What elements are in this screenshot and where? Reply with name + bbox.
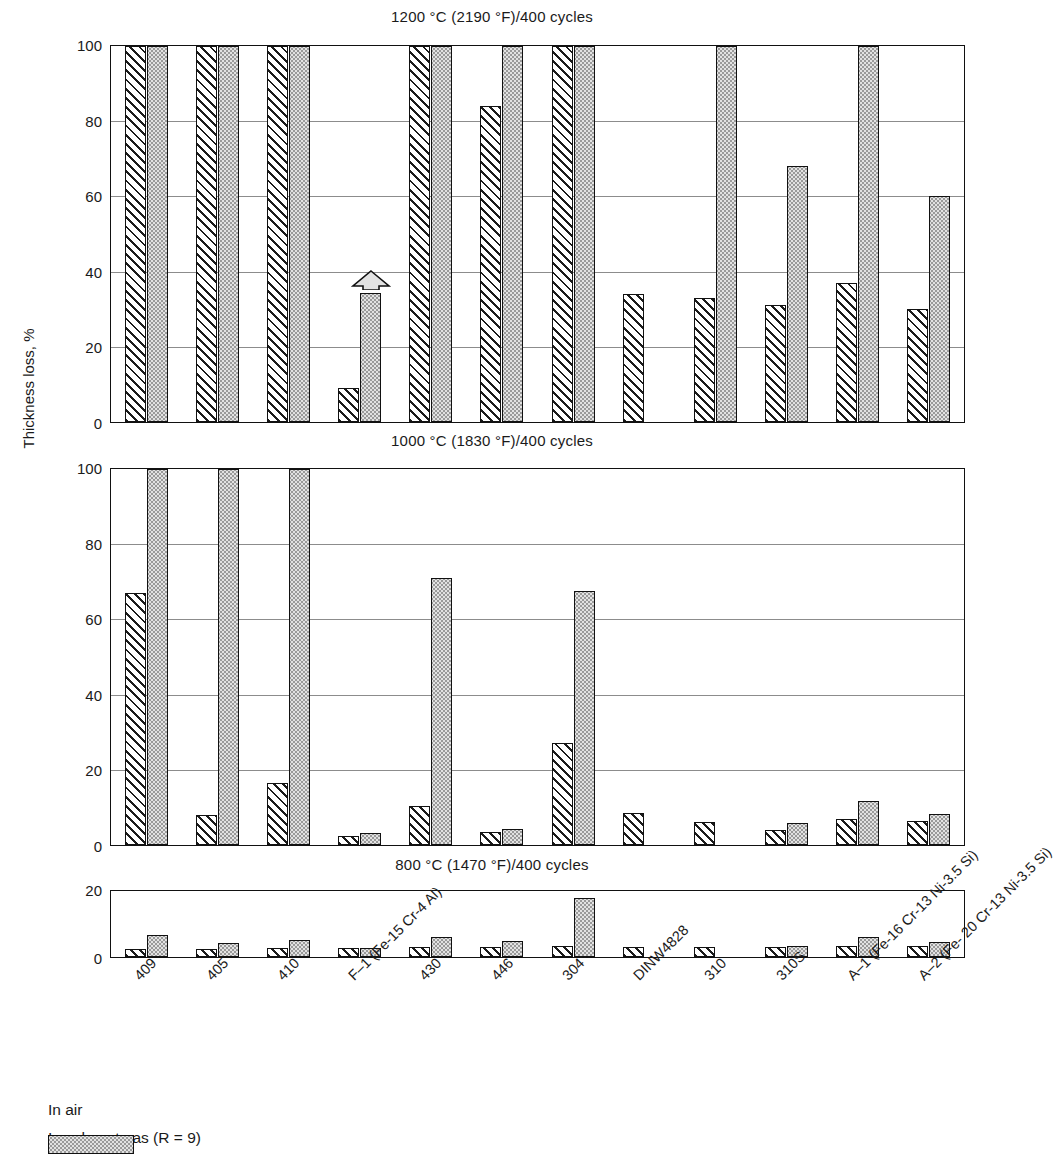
bar-exhaust xyxy=(929,196,950,422)
bar-exhaust xyxy=(360,833,381,845)
bar-group xyxy=(324,46,395,422)
panel-3-title: 800 °C (1470 °F)/400 cycles xyxy=(0,856,984,873)
panel-2-plot-area xyxy=(110,468,965,846)
bar-air xyxy=(196,46,217,422)
bar-air xyxy=(267,46,288,422)
y-tick-label: 20 xyxy=(62,339,102,356)
bar-group xyxy=(182,469,253,845)
legend-label-air: In air xyxy=(48,1101,82,1119)
bar-air xyxy=(267,783,288,845)
bar-group xyxy=(111,46,182,422)
bar-exhaust xyxy=(147,469,168,845)
bar-group xyxy=(751,891,822,957)
bar-air xyxy=(480,106,501,422)
y-tick-label: 20 xyxy=(62,762,102,779)
bar-air xyxy=(907,946,928,957)
bar-group xyxy=(253,891,324,957)
bar-exhaust xyxy=(929,814,950,845)
bar-group xyxy=(893,469,964,845)
bar-air xyxy=(623,947,644,957)
x-tick-label: 409 xyxy=(131,955,159,983)
bar-exhaust xyxy=(289,46,310,422)
y-tick-label: 0 xyxy=(62,950,102,967)
bar-air xyxy=(836,283,857,422)
bar-air xyxy=(480,947,501,957)
bar-exhaust xyxy=(502,46,523,422)
bar-air xyxy=(338,836,359,845)
x-tick-label: 446 xyxy=(488,955,516,983)
bar-exhaust xyxy=(147,46,168,422)
bar-group xyxy=(466,46,537,422)
bar-exhaust xyxy=(218,46,239,422)
bar-group xyxy=(538,46,609,422)
bar-air xyxy=(765,305,786,422)
bar-air xyxy=(338,948,359,957)
bar-group xyxy=(395,46,466,422)
bar-air xyxy=(765,830,786,845)
bar-exhaust xyxy=(502,829,523,845)
bar-air xyxy=(338,388,359,422)
bar-exhaust xyxy=(574,898,595,957)
bar-group xyxy=(324,469,395,845)
bar-exhaust xyxy=(787,166,808,422)
bar-exhaust xyxy=(289,469,310,845)
bar-exhaust xyxy=(716,46,737,422)
bar-group xyxy=(893,46,964,422)
bar-group xyxy=(395,469,466,845)
x-axis-category-labels: 409405410F–1 (Fe-15 Cr-4 Al)430446304DIN… xyxy=(110,958,965,1158)
panel-1-y-ticks: 020406080100 xyxy=(56,45,102,423)
x-tick-label: 304 xyxy=(559,955,587,983)
legend-item-air: In air xyxy=(48,1098,201,1122)
bar-group xyxy=(253,469,324,845)
bar-exhaust xyxy=(431,578,452,845)
bar-exhaust xyxy=(289,940,310,957)
bar-exhaust xyxy=(360,293,381,422)
bar-group xyxy=(182,46,253,422)
bar-exhaust xyxy=(574,591,595,845)
bar-group xyxy=(538,469,609,845)
bar-air xyxy=(907,309,928,422)
bar-group xyxy=(680,469,751,845)
bar-group xyxy=(538,891,609,957)
panel-3-bars xyxy=(111,891,964,957)
y-axis-label: Thickness loss, % xyxy=(20,269,37,509)
bar-air xyxy=(552,946,573,957)
bar-air xyxy=(480,832,501,845)
bar-group xyxy=(111,469,182,845)
bar-air xyxy=(552,46,573,422)
bar-exhaust xyxy=(431,46,452,422)
bar-group xyxy=(751,46,822,422)
panel-1-title: 1200 °C (2190 °F)/400 cycles xyxy=(0,8,984,25)
bar-air xyxy=(267,948,288,957)
x-tick-label: 410 xyxy=(274,955,302,983)
bar-air xyxy=(623,294,644,422)
y-tick-label: 40 xyxy=(62,686,102,703)
panel-2-y-ticks: 020406080100 xyxy=(56,468,102,846)
bar-air xyxy=(694,947,715,957)
bar-air xyxy=(623,813,644,845)
bar-exhaust xyxy=(858,46,879,422)
bar-air xyxy=(125,593,146,845)
bar-group xyxy=(466,891,537,957)
bar-exhaust xyxy=(147,935,168,957)
panel-3-plot-area xyxy=(110,890,965,958)
bar-air xyxy=(765,947,786,957)
y-tick-label: 0 xyxy=(62,415,102,432)
bar-group xyxy=(680,46,751,422)
legend-swatch-exhaust xyxy=(48,1135,134,1154)
y-tick-label: 100 xyxy=(62,37,102,54)
bar-group xyxy=(822,46,893,422)
bar-air xyxy=(694,298,715,422)
bar-exhaust xyxy=(858,801,879,845)
bar-group xyxy=(680,891,751,957)
bar-air xyxy=(694,822,715,845)
bar-group xyxy=(466,469,537,845)
off-scale-up-arrow-icon xyxy=(350,270,392,294)
panel-3-y-ticks: 020 xyxy=(56,890,102,958)
bar-air xyxy=(907,821,928,845)
panel-2-bars xyxy=(111,469,964,845)
bar-air xyxy=(836,819,857,845)
y-tick-label: 20 xyxy=(62,882,102,899)
bar-air xyxy=(552,743,573,845)
